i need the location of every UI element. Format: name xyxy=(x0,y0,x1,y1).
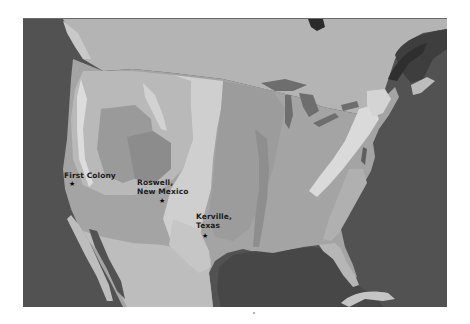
label-kerville: Kerville, Texas xyxy=(196,213,232,230)
roswell-line2: New Mexico xyxy=(137,188,188,197)
us-relief-map: First Colony ★ Roswell, New Mexico ★ Ker… xyxy=(23,18,447,307)
stray-dot xyxy=(253,312,255,314)
label-roswell: Roswell, New Mexico xyxy=(137,179,188,196)
kerville-line2: Texas xyxy=(196,222,232,231)
roswell-marker-icon: ★ xyxy=(159,198,165,204)
map-canvas xyxy=(23,19,447,307)
first-colony-marker-icon: ★ xyxy=(69,181,75,187)
kerville-marker-icon: ★ xyxy=(202,233,208,239)
